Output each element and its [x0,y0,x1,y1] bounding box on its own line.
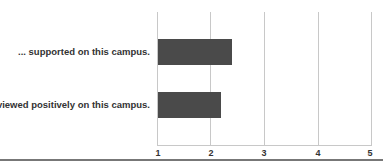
x-tick: 2 [208,148,213,158]
category-label: ... viewed positively on this campus. [0,99,150,110]
x-tick: 4 [315,148,320,158]
gridline-1 [157,12,158,146]
gridline-5 [371,12,372,146]
x-tick: 3 [261,148,266,158]
bar-supported [158,39,232,65]
x-axis-line [157,145,372,146]
x-tick: 5 [367,148,372,158]
bottom-divider [0,159,383,161]
gridline-4 [318,12,319,146]
gridline-3 [264,12,265,146]
bar-viewed-positively [158,92,221,118]
gridline-2 [210,12,211,146]
category-label: ... supported on this campus. [18,46,150,57]
x-tick: 1 [155,148,160,158]
